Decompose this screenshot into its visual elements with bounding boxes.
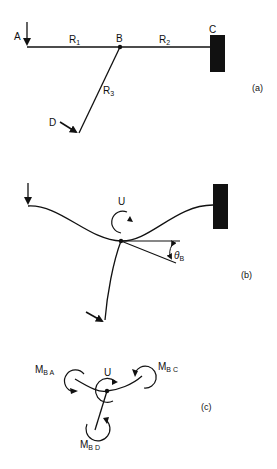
joint-b-c: [105, 389, 109, 393]
member-label-r2: R2: [159, 34, 170, 46]
moment-label-mbc: MB C: [158, 361, 178, 373]
panel-label-b: (b): [241, 270, 252, 280]
panel-label-c: (c): [201, 402, 212, 412]
rotation-label-c: U: [104, 367, 111, 378]
rotation-arrowhead-c: [112, 379, 118, 385]
support-arrow-d: [60, 122, 76, 132]
moment-arrow-mbd: [86, 420, 110, 441]
moment-arrow-mba: [64, 370, 84, 391]
rotation-label-b: U: [118, 196, 125, 207]
node-label-c: C: [209, 24, 216, 35]
member-label-r1: R1: [69, 34, 80, 46]
angle-arc: [170, 245, 172, 258]
rotation-arrowhead: [127, 216, 133, 222]
fixed-support-c: [210, 35, 225, 72]
deflected-beam: [28, 205, 213, 241]
node-label-a: A: [14, 31, 21, 42]
moment-arrowhead-mba: [70, 388, 78, 394]
angle-label: θB: [174, 250, 184, 262]
moment-label-mba: MB A: [35, 364, 55, 376]
panel-c: U MB A MB C MB D (c): [35, 361, 212, 451]
frame-diagram: A B C D R1 R2 R3 (a) θB U (b) U MB: [0, 0, 277, 469]
node-label-d: D: [49, 117, 56, 128]
joint-b: [118, 45, 122, 49]
moment-arrow-mbc: [135, 366, 156, 388]
panel-label-a: (a): [252, 83, 263, 93]
support-arrow-d-b: [86, 312, 102, 321]
panel-b: θB U (b): [28, 183, 252, 321]
rotation-arrow: [112, 211, 127, 233]
tangent-line: [121, 241, 176, 263]
panel-a: A B C D R1 R2 R3 (a): [14, 22, 263, 133]
fixed-support-c-b: [213, 184, 228, 229]
node-label-b: B: [116, 33, 123, 44]
member-label-r3: R3: [103, 85, 114, 97]
deflected-column: [105, 241, 121, 320]
